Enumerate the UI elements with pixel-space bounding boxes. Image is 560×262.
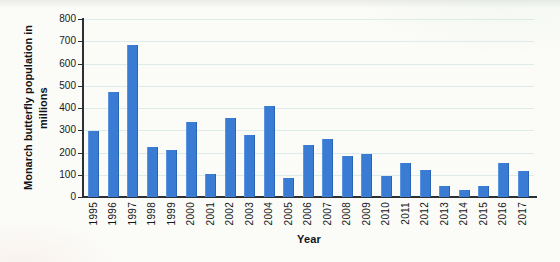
- bar-2012: [420, 170, 431, 197]
- bar-2015: [478, 186, 489, 197]
- plot-area: [84, 19, 534, 197]
- x-tick-label: 2007: [322, 202, 333, 225]
- y-tick-mark: [78, 64, 83, 65]
- x-tick-label: 2013: [439, 202, 450, 225]
- bar-2010: [381, 176, 392, 197]
- x-axis-title: Year: [297, 233, 321, 245]
- x-tick-label: 2015: [478, 202, 489, 225]
- bar-2009: [361, 154, 372, 197]
- bar-2006: [303, 145, 314, 197]
- x-tick-label: 2004: [263, 202, 274, 225]
- gridline: [84, 19, 534, 20]
- x-tick-label: 2017: [517, 202, 528, 225]
- x-tick-label: 2008: [341, 202, 352, 225]
- x-tick-label: 1999: [166, 202, 177, 225]
- bar-1996: [108, 92, 119, 197]
- bar-1997: [127, 45, 138, 197]
- y-tick-label: 300: [42, 124, 76, 136]
- x-tick-label: 1995: [88, 202, 99, 225]
- bar-2005: [283, 178, 294, 197]
- bar-2008: [342, 156, 353, 197]
- bar-1999: [166, 150, 177, 197]
- bar-1995: [88, 131, 99, 197]
- bar-2000: [186, 122, 197, 197]
- x-tick-label: 2010: [380, 202, 391, 225]
- bar-2016: [498, 163, 509, 197]
- gridline: [84, 41, 534, 42]
- y-tick-label: 800: [42, 13, 76, 25]
- x-tick-label: 2009: [361, 202, 372, 225]
- y-tick-label: 200: [42, 147, 76, 159]
- y-tick-label: 400: [42, 102, 76, 114]
- y-tick-mark: [78, 41, 83, 42]
- x-tick-label: 1996: [107, 202, 118, 225]
- y-tick-mark: [78, 153, 83, 154]
- x-tick-label: 2011: [400, 202, 411, 225]
- y-tick-mark: [78, 19, 83, 20]
- x-tick-label: 2014: [458, 202, 469, 225]
- y-tick-label: 100: [42, 169, 76, 181]
- y-tick-label: 600: [42, 58, 76, 70]
- bar-2011: [400, 163, 411, 197]
- bar-1998: [147, 147, 158, 197]
- y-tick-label: 0: [42, 191, 76, 203]
- y-axis-title-line1: Monarch butterfly population in: [21, 19, 36, 197]
- y-tick-label: 500: [42, 80, 76, 92]
- x-tick-label: 2016: [497, 202, 508, 225]
- y-tick-mark: [78, 108, 83, 109]
- x-tick-label: 2000: [185, 202, 196, 225]
- bar-2017: [518, 171, 529, 197]
- gridline: [84, 86, 534, 87]
- x-tick-label: 2006: [302, 202, 313, 225]
- gridline: [84, 64, 534, 65]
- y-tick-label: 700: [42, 35, 76, 47]
- y-tick-mark: [78, 86, 83, 87]
- y-tick-mark: [78, 175, 83, 176]
- x-tick-label: 1997: [127, 202, 138, 225]
- gridline: [84, 108, 534, 109]
- x-tick-label: 2012: [419, 202, 430, 225]
- bar-2002: [225, 118, 236, 197]
- x-tick-label: 2003: [244, 202, 255, 225]
- y-tick-mark: [78, 130, 83, 131]
- bar-chart: Monarch butterfly population in millions…: [0, 0, 560, 262]
- x-tick-label: 1998: [146, 202, 157, 225]
- gridline: [84, 130, 534, 131]
- x-tick-label: 2002: [224, 202, 235, 225]
- bar-2014: [459, 190, 470, 197]
- bar-2001: [205, 174, 216, 197]
- bar-2007: [322, 139, 333, 197]
- x-tick-label: 2001: [205, 202, 216, 225]
- bar-2004: [264, 106, 275, 197]
- x-tick-label: 2005: [283, 202, 294, 225]
- bar-2003: [244, 135, 255, 197]
- y-tick-mark: [78, 197, 83, 198]
- bar-2013: [439, 186, 450, 197]
